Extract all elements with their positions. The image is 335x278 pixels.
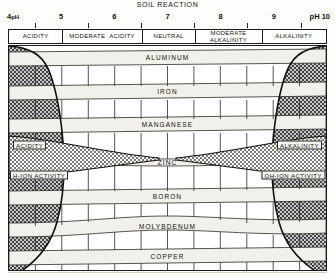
page-rule [8, 272, 327, 273]
axis-tick-ph9: 9 [272, 12, 276, 21]
reaction-class-neutral: NEUTRAL [142, 30, 195, 43]
axis-minor-tick [301, 23, 302, 28]
annotation-acidity: ACIDITY [13, 141, 46, 150]
axis-tick-ph6: 6 [112, 12, 116, 21]
availability-bands-svg [9, 46, 326, 270]
axis-tick-ph10: pH 10 [310, 12, 330, 21]
axis-minor-tick [35, 23, 36, 28]
soil-reaction-chart: SOIL REACTION 4pH 5 6 7 8 9 pH 10 ACIDIT… [0, 0, 335, 278]
axis-tick-ph7: 7 [165, 12, 169, 21]
axis-tick-ph5: 5 [59, 12, 63, 21]
reaction-class-acidity: ACIDITY [9, 30, 62, 43]
reaction-class-band: ACIDITY MODERATE ACIDITY NEUTRAL MODERAT… [8, 29, 327, 44]
axis-tick-ph8: 8 [219, 12, 223, 21]
reaction-class-moderate-acidity: MODERATE ACIDITY [62, 30, 142, 43]
axis-tick-ph4: 4pH [7, 12, 19, 21]
availability-plot: ALUMINUM IRON MANGANESE ZINC BORON MOLYB… [8, 45, 327, 271]
axis-minor-tick [88, 23, 89, 28]
annotation-h-ion-activity: H-ION ACTIVITY [10, 171, 68, 180]
annotation-oh-ion-activity: OH-ION ACTIVITY [261, 171, 325, 180]
chart-title: SOIL REACTION [0, 1, 335, 8]
reaction-class-alkalinity: ALKALINITY [262, 30, 326, 43]
reaction-class-moderate-alkalinity: MODERATEALKALINITY [195, 30, 262, 43]
annotation-alkalinity: ALKALINITY [277, 141, 322, 150]
axis-minor-tick [247, 23, 248, 28]
axis-minor-tick [194, 23, 195, 28]
axis-minor-tick [141, 23, 142, 28]
